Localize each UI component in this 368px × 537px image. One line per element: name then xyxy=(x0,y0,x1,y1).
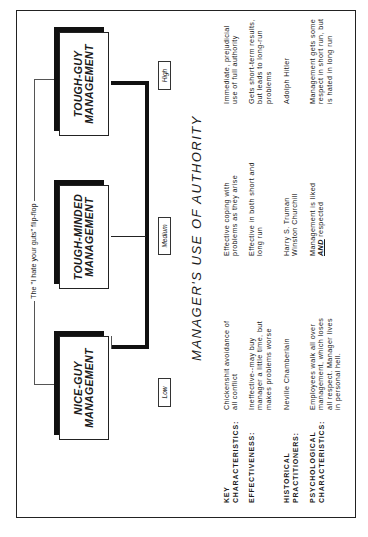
box-label: MANAGEMENT xyxy=(84,44,95,123)
flip-flop-label: The "I hate your guts" flip-flop xyxy=(29,201,38,301)
authority-scale-bar xyxy=(145,81,149,349)
cell-nice-effectiveness: Ineffective--may buy manager a little ti… xyxy=(248,318,273,410)
box-label: MANAGEMENT xyxy=(84,197,95,276)
level-medium-tag: Medium xyxy=(158,217,171,255)
label-line: PRACTITIONERS: xyxy=(292,423,301,503)
level-low-tag: Low xyxy=(158,378,171,407)
nice-connector-top xyxy=(111,336,112,349)
row-label-key: KEY CHARACTERISTICS: xyxy=(223,423,240,503)
cell-nice-historical: Neville Chamberlain xyxy=(283,312,291,410)
label-line: KEY xyxy=(223,423,232,503)
document-page: △ The "I hate your guts" flip-flop NICE-… xyxy=(16,10,356,518)
nice-connector xyxy=(111,345,149,349)
cell-nice-psychological: Employees walk all over management, whic… xyxy=(309,312,343,410)
cell-tough-historical: Adolph Hitler xyxy=(283,14,291,104)
row-label-psychological: PSYCHOLOGICAL CHARACTERISTICS: xyxy=(309,423,326,503)
chart-title: MANAGER'S USE OF AUTHORITY xyxy=(189,102,204,374)
row-label-historical: HISTORICAL PRACTITIONERS: xyxy=(283,423,300,503)
row-label-effectiveness: EFFECTIVENESS: xyxy=(248,423,257,503)
label-line: CHARACTERISTICS: xyxy=(318,423,327,503)
label-line: HISTORICAL xyxy=(283,423,292,503)
text-fragment: respected xyxy=(316,202,325,237)
cell-tough-key: Immediate, prejudicial use of full autho… xyxy=(223,14,240,104)
cell-tough-effectiveness: Gets short-term results, but leads to lo… xyxy=(248,16,273,104)
minded-connector xyxy=(111,236,146,237)
label-line: EFFECTIVENESS: xyxy=(248,423,257,503)
emphasis-and: AND xyxy=(316,239,325,256)
label-line: CHARACTERISTICS: xyxy=(232,423,241,503)
cell-minded-psychological: Management is liked AND respected xyxy=(309,166,326,256)
tough-guy-box: TOUGH-GUY MANAGEMENT xyxy=(59,32,109,136)
tough-minded-box: TOUGH-MINDED MANAGEMENT xyxy=(59,185,109,289)
tough-connector xyxy=(111,81,149,85)
cell-nice-key: Chickenshit avoidance of all conflict xyxy=(223,312,240,410)
cell-minded-historical: Harry S. Truman Winston Churchill xyxy=(283,150,300,256)
cell-minded-effectiveness: Effective in both short and long run xyxy=(248,150,265,256)
label-line: PSYCHOLOGICAL xyxy=(309,423,318,503)
level-high-tag: High xyxy=(158,61,171,90)
box-label: MANAGEMENT xyxy=(84,348,95,427)
nice-guy-box: NICE-GUY MANAGEMENT xyxy=(59,336,109,440)
cell-tough-psychological: Management gets some respect in short ru… xyxy=(309,12,334,104)
cell-minded-key: Effective coping with problems as they a… xyxy=(223,150,240,256)
